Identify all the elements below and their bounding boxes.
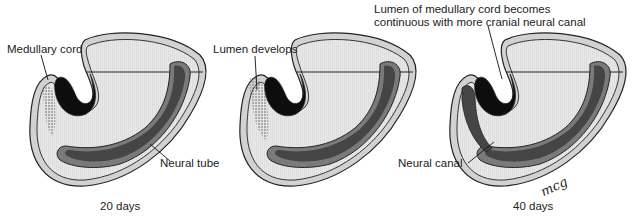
label-lumen-continuous-line2: continuous with more cranial neural cana… (374, 16, 586, 29)
label-neural-canal: Neural canal (398, 157, 463, 170)
label-lumen-develops: Lumen develops (213, 43, 297, 56)
label-lumen-continuous-line1: Lumen of medullary cord becomes (374, 3, 550, 16)
embryo-40-days (450, 26, 626, 186)
lumen-continuous-pointer (488, 26, 502, 79)
caption-40-days: 40 days (513, 200, 553, 212)
embryo-diagram (0, 0, 634, 223)
caption-20-days: 20 days (100, 200, 140, 212)
label-neural-tube: Neural tube (160, 157, 219, 170)
label-medullary-cord: Medullary cord (7, 43, 82, 56)
medullary-cord-pointer (41, 55, 48, 80)
